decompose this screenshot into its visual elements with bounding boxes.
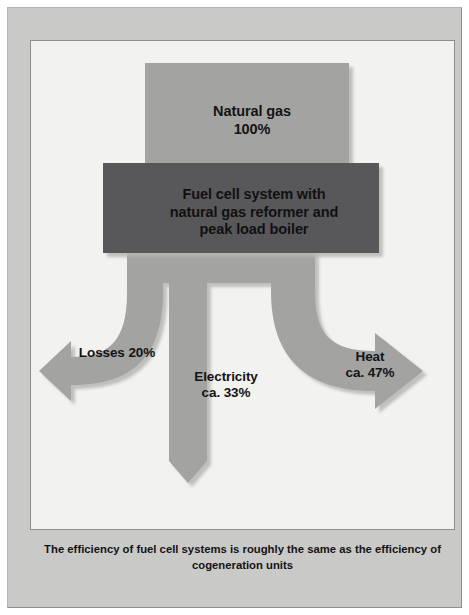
natural-gas-label: Natural gas 100%: [147, 103, 357, 138]
figure-frame: Natural gas 100% Fuel cell system with n…: [7, 7, 462, 608]
electricity-arrow: [169, 253, 207, 483]
electricity-label: Electricity ca. 33%: [166, 369, 286, 402]
losses-label: Losses 20%: [49, 345, 185, 361]
figure-caption: The efficiency of fuel cell systems is r…: [30, 542, 455, 573]
heat-label: Heat ca. 47%: [316, 349, 424, 382]
diagram-panel: Natural gas 100% Fuel cell system with n…: [30, 40, 455, 530]
process-label: Fuel cell system with natural gas reform…: [127, 186, 381, 239]
